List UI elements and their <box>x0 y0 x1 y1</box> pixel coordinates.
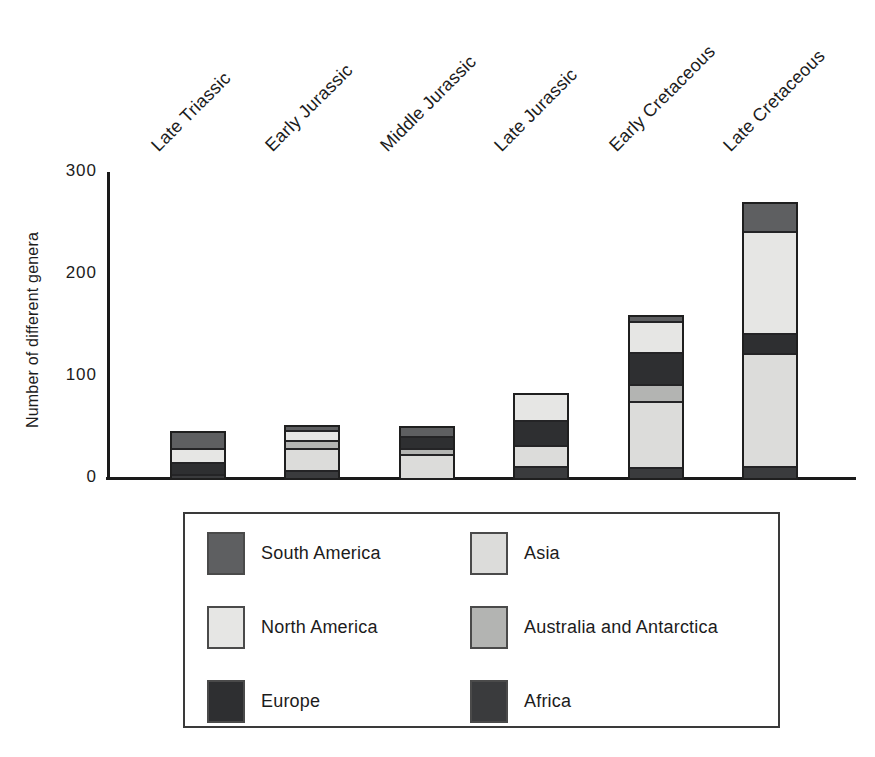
legend-label: Asia <box>524 532 560 575</box>
segment-africa <box>630 467 682 478</box>
segment-europe <box>515 420 567 446</box>
segment-asia <box>515 445 567 465</box>
legend-swatch-africa <box>470 680 508 723</box>
legend-label: Africa <box>524 680 571 723</box>
category-label: Early Jurassic <box>260 59 357 156</box>
bar-late-triassic <box>170 431 226 480</box>
legend-swatch-europe <box>207 680 245 723</box>
segment-south-america <box>401 428 453 436</box>
y-tick-label: 200 <box>38 264 97 282</box>
legend-swatch-south-america <box>207 532 245 575</box>
segment-asia <box>286 448 338 469</box>
category-label: Early Cretaceous <box>604 41 719 156</box>
y-tick-label: 100 <box>38 366 97 384</box>
y-axis-title: Number of different genera <box>24 232 42 428</box>
segment-europe <box>744 333 796 352</box>
y-tick-label: 300 <box>38 162 97 180</box>
legend-swatch-asia <box>470 532 508 575</box>
segment-north-america <box>172 448 224 461</box>
segment-europe <box>172 462 224 474</box>
segment-africa <box>744 466 796 478</box>
legend-label: Europe <box>261 680 320 723</box>
segment-north-america <box>515 395 567 419</box>
segment-north-america <box>286 430 338 440</box>
bar-late-jurassic <box>513 393 569 480</box>
segment-europe <box>630 352 682 385</box>
segment-africa <box>172 474 224 478</box>
category-label: Late Triassic <box>146 67 235 156</box>
category-label: Late Cretaceous <box>718 45 829 156</box>
segment-north-america <box>744 231 796 333</box>
segment-asia <box>744 353 796 466</box>
segment-north-america <box>630 321 682 352</box>
legend-label: North America <box>261 606 378 649</box>
legend-swatch-north-america <box>207 606 245 649</box>
bar-early-cretaceous <box>628 315 684 480</box>
segment-africa <box>515 466 567 478</box>
segment-australia-and-antarctica <box>630 384 682 401</box>
category-label: Middle Jurassic <box>375 51 480 156</box>
legend-box: South AmericaNorth AmericaEuropeAsiaAust… <box>183 512 780 728</box>
bar-early-jurassic <box>284 425 340 480</box>
y-tick-label: 0 <box>38 468 97 486</box>
segment-asia <box>401 454 453 478</box>
segment-south-america <box>172 433 224 448</box>
segment-south-america <box>744 204 796 232</box>
legend-label: South America <box>261 532 381 575</box>
category-label: Late Jurassic <box>489 64 581 156</box>
segment-asia <box>630 401 682 466</box>
segment-africa <box>286 470 338 478</box>
bar-middle-jurassic <box>399 426 455 480</box>
segment-australia-and-antarctica <box>286 440 338 448</box>
segment-europe <box>401 436 453 448</box>
y-axis-line <box>107 172 110 480</box>
legend-label: Australia and Antarctica <box>524 606 718 649</box>
stacked-bar-chart-figure: Number of different genera South America… <box>0 0 875 757</box>
legend-swatch-australia-and-antarctica <box>470 606 508 649</box>
bar-late-cretaceous <box>742 202 798 480</box>
